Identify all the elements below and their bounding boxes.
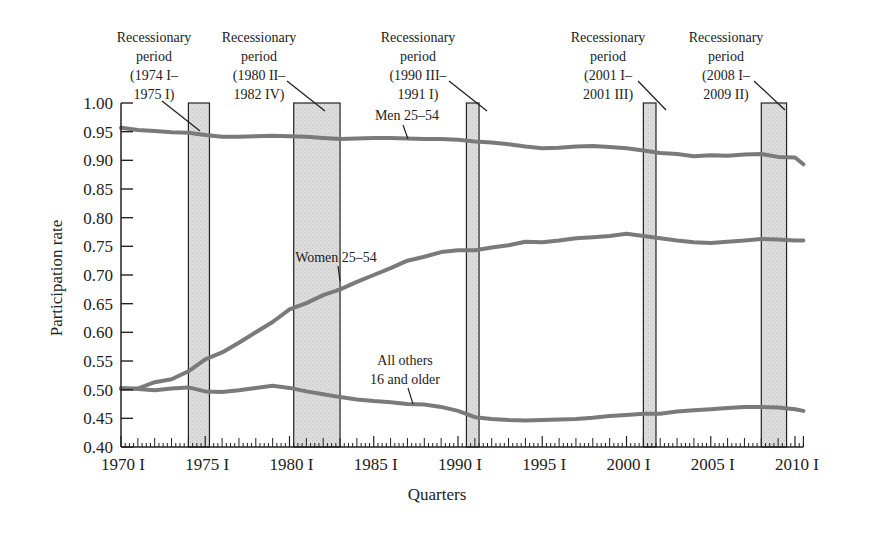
y-axis-title: Participation rate <box>47 220 66 337</box>
series-label-men: Men 25–54 <box>375 108 439 123</box>
data-series <box>121 128 803 421</box>
x-tick-label: 1975 I <box>185 455 229 474</box>
y-tick-label: 0.95 <box>83 123 113 142</box>
recession-label: Recessionaryperiod(1980 II–1982 IV) <box>222 30 297 103</box>
x-tick-label: 1990 I <box>438 455 482 474</box>
y-tick-label: 0.70 <box>83 266 113 285</box>
recession-bar <box>188 103 209 447</box>
x-axis-title: Quarters <box>408 485 467 504</box>
y-tick-label: 0.55 <box>83 352 113 371</box>
series-line <box>121 386 803 421</box>
x-tick-label: 1995 I <box>522 455 566 474</box>
y-tick-label: 0.65 <box>83 295 113 314</box>
y-tick-label: 0.85 <box>83 180 113 199</box>
recession-label: Recessionaryperiod(1974 I–1975 I) <box>117 30 192 103</box>
x-tick-label: 2000 I <box>607 455 651 474</box>
x-tick-label: 1980 I <box>270 455 314 474</box>
x-tick-label: 1985 I <box>354 455 398 474</box>
x-tick-label: 2005 I <box>691 455 735 474</box>
y-tick-label: 0.60 <box>83 323 113 342</box>
recession-bar <box>466 103 479 447</box>
y-tick-label: 0.90 <box>83 151 113 170</box>
recession-bar <box>643 103 656 447</box>
series-line <box>121 128 803 165</box>
recession-label: Recessionaryperiod(2008 I–2009 II) <box>689 30 764 103</box>
recession-label: Recessionaryperiod(1990 III–1991 I) <box>381 30 456 103</box>
series-label-others: All others16 and older <box>370 353 440 387</box>
recession-label: Recessionaryperiod(2001 I–2001 III) <box>571 30 646 103</box>
labor-participation-chart: 0.400.450.500.550.600.650.700.750.800.85… <box>0 0 873 537</box>
series-label-women: Women 25–54 <box>295 250 377 265</box>
series-line <box>121 234 803 389</box>
y-tick-label: 0.50 <box>83 381 113 400</box>
x-tick-label: 1970 I <box>101 455 145 474</box>
y-tick-label: 0.45 <box>83 409 113 428</box>
y-tick-label: 1.00 <box>83 94 113 113</box>
y-tick-label: 0.80 <box>83 209 113 228</box>
x-tick-label: 2010 I <box>775 455 819 474</box>
annotations: Recessionaryperiod(1974 I–1975 I)Recessi… <box>117 30 785 404</box>
y-tick-label: 0.75 <box>83 237 113 256</box>
